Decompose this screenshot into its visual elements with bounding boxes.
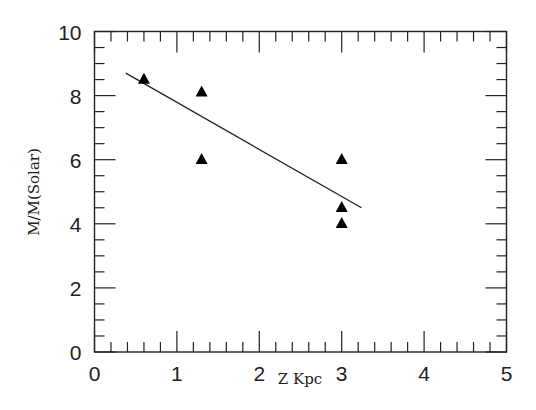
triangle-marker-icon bbox=[196, 86, 208, 97]
x-tick-label: 4 bbox=[418, 362, 430, 385]
y-tick-label: 8 bbox=[70, 85, 82, 108]
y-tick-label: 10 bbox=[58, 21, 81, 44]
triangle-marker-icon bbox=[138, 73, 150, 84]
triangle-marker-icon bbox=[196, 153, 208, 164]
y-tick-label: 2 bbox=[70, 277, 82, 300]
x-axis-label: Z Kpc bbox=[278, 370, 322, 388]
major-ticks bbox=[95, 32, 507, 353]
data-markers bbox=[138, 73, 348, 228]
scatter-chart: 012345 0246810 Z Kpc M/M(Solar) bbox=[0, 0, 536, 410]
x-tick-label: 2 bbox=[253, 362, 265, 385]
x-tick-label: 0 bbox=[89, 362, 101, 385]
plot-frame bbox=[95, 32, 507, 353]
triangle-marker-icon bbox=[336, 201, 348, 212]
y-tick-label: 4 bbox=[70, 213, 82, 236]
x-tick-label: 1 bbox=[171, 362, 183, 385]
minor-ticks bbox=[95, 32, 507, 353]
y-tick-labels: 0246810 bbox=[58, 21, 82, 365]
triangle-marker-icon bbox=[336, 153, 348, 164]
x-tick-label: 3 bbox=[336, 362, 348, 385]
fit-line bbox=[126, 73, 362, 208]
y-tick-label: 0 bbox=[70, 341, 82, 364]
triangle-marker-icon bbox=[336, 217, 348, 228]
x-tick-label: 5 bbox=[501, 362, 513, 385]
y-axis-label: M/M(Solar) bbox=[25, 148, 43, 236]
y-tick-label: 6 bbox=[70, 149, 82, 172]
